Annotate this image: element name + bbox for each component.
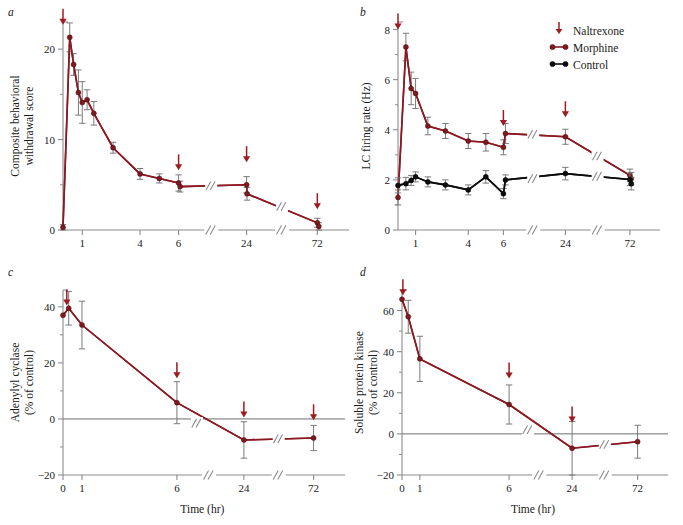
naltrexone-arrow-icon [399,279,406,295]
naltrexone-arrowhead-icon [556,29,563,34]
data-point [503,131,508,136]
y-axis-title-line: LC firing rate (Hz) [360,82,373,169]
naltrexone-arrow-icon [243,146,250,162]
x-tick-label: 24 [238,482,250,494]
naltrexone-arrow-icon [240,402,247,418]
arrow-head [394,24,401,30]
data-point [483,174,488,179]
data-point [396,183,401,188]
data-point [425,124,430,129]
y-tick-label: 20 [44,43,56,55]
panel-b: b 024681462472LC firing rate (Hz)Naltrex… [352,0,683,260]
arrow-head [243,156,250,162]
data-point [66,306,71,311]
x-axis-title: Time (hr) [180,503,224,516]
line-break-gap [205,180,217,192]
series-line [402,299,638,448]
data-point [138,171,143,176]
data-point [501,145,506,150]
data-point [443,182,448,187]
data-point [311,436,316,441]
panel-b-plot: 024681462472LC firing rate (Hz)Naltrexon… [352,0,683,260]
data-point [406,314,411,319]
data-point [413,174,418,179]
legend-item: Morphine [550,42,618,55]
morphine-marker-icon [550,44,555,49]
data-point [61,225,66,230]
series-line [63,37,319,227]
arrow-head [506,372,513,378]
x-tick-label: 1 [417,482,423,494]
arrow-head [562,111,569,117]
panel-b-label: b [360,6,366,18]
y-tick-label: −20 [377,469,395,481]
data-point [111,145,116,150]
x-tick-label: 72 [624,237,635,249]
data-point [403,181,408,186]
data-point [91,111,96,116]
x-tick-label: 72 [632,482,643,494]
y-axis-title-line: (% of control) [23,350,36,415]
line-break-gap [276,200,288,212]
panel-d-plot: −2002040600162472Soluble protein kinase(… [352,262,683,525]
data-point [80,100,85,105]
data-point [483,140,488,145]
x-tick-label: 0 [60,482,66,494]
data-point [629,181,634,186]
naltrexone-arrow-icon [562,101,569,117]
y-tick-label: 6 [385,74,391,86]
data-point [466,187,471,192]
naltrexone-arrow-icon [310,404,317,420]
control-marker-icon [550,61,555,66]
y-axis-title-line: Composite behavioral [9,75,22,176]
panel-a: a 010201462472Composite behavioralwithdr… [0,0,352,260]
data-point [71,62,76,67]
naltrexone-arrow-icon [173,362,180,378]
data-point [503,177,508,182]
line-break-gap [273,433,285,445]
data-point [61,313,66,318]
data-point [85,97,90,102]
y-axis-title: Composite behavioralwithdrawal score [9,75,35,176]
x-tick-label: 1 [80,237,86,249]
naltrexone-arrow-icon [506,362,513,378]
line-break-gap [527,128,539,140]
naltrexone-arrow-icon [175,154,182,170]
y-axis-title: LC firing rate (Hz) [360,82,373,169]
data-point [501,191,506,196]
y-tick-label: 0 [50,224,56,236]
legend-item-label: Naltrexone [573,25,624,37]
data-point [400,297,405,302]
data-point [563,171,568,176]
legend-item: Naltrexone [556,22,624,37]
x-axis-title: Time (hr) [511,503,555,516]
arrow-head [175,164,182,170]
panel-c-label: c [8,266,13,278]
data-point [396,195,401,200]
series-line-overlay [63,308,314,440]
x-tick-label: 4 [137,237,143,249]
x-tick-label: 24 [241,237,253,249]
y-tick-label: 8 [385,24,391,36]
series-line-overlay [402,299,638,448]
x-tick-label: 24 [560,237,572,249]
y-tick-label: 40 [383,346,395,358]
y-axis-title-line: (% of control) [367,350,380,415]
legend-item: Control [550,59,608,71]
arrow-head [310,414,317,420]
data-point [466,139,471,144]
data-point [409,178,414,183]
data-point [178,184,183,189]
data-point [76,90,81,95]
x-tick-label: 72 [308,482,319,494]
data-point [417,356,422,361]
panel-d-label: d [360,266,366,278]
y-axis-title-line: Adenylyl cyclase [9,343,22,423]
y-tick-label: −20 [38,469,56,481]
y-axis-title-line: withdrawal score [23,87,35,166]
arrow-head [240,412,247,418]
line-break-gap [592,150,604,162]
x-tick-label: 0 [399,482,405,494]
panel-c: c −20020400162472Adenylyl cyclase(% of c… [0,262,352,525]
legend-item-label: Morphine [573,42,618,55]
